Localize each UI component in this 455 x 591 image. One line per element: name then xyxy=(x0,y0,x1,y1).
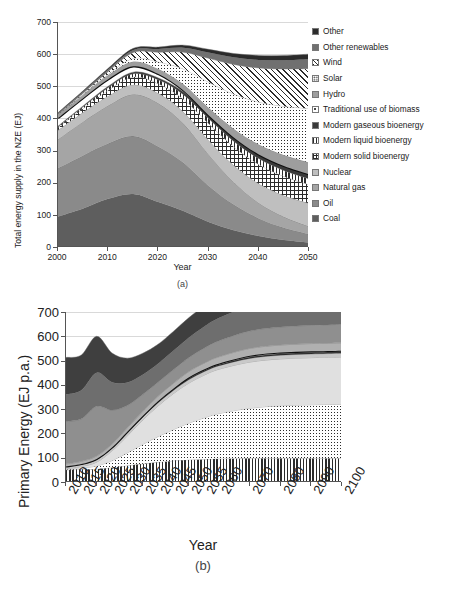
y-axis-tick-label: 0 xyxy=(27,242,51,252)
legend-item-oil[interactable]: Oil xyxy=(312,196,455,212)
legend-item-modern-gaseous-bioenergy[interactable]: Modern gaseous bioenergy xyxy=(312,118,455,134)
y-axis-tick-mark xyxy=(53,22,57,23)
legend-item-wind[interactable]: Wind xyxy=(312,55,455,71)
legend-item-coal[interactable]: Coal xyxy=(312,211,455,227)
legend-item-label: Other renewables xyxy=(323,43,389,52)
legend-swatch-icon xyxy=(312,106,319,113)
x-axis-tick-label: 2020 xyxy=(137,252,177,262)
y-axis-tick-mark xyxy=(53,86,57,87)
legend-item-solar[interactable]: Solar xyxy=(312,71,455,87)
legend-item-label: Coal xyxy=(323,214,340,223)
x-axis-tick-label: 2100 xyxy=(341,464,368,497)
legend-swatch-icon xyxy=(312,28,319,35)
caption-a: (a) xyxy=(57,279,308,289)
y-axis-tick-label: 700 xyxy=(27,17,51,27)
legend-item-modern-liquid-bioenergy[interactable]: Modern liquid bioenergy xyxy=(312,133,455,149)
y-axis-tick-label: 400 xyxy=(27,113,51,123)
y-axis-tick-label: 100 xyxy=(27,210,51,220)
caption-b: (b) xyxy=(65,558,341,573)
y-axis-tick-mark xyxy=(61,433,65,434)
y-axis-tick-mark xyxy=(53,151,57,152)
y-axis-tick-mark xyxy=(61,361,65,362)
y-axis-tick-mark xyxy=(61,336,65,337)
legend-a: OtherOther renewablesWindSolarHydroTradi… xyxy=(312,24,455,227)
legend-swatch-icon xyxy=(312,215,319,222)
y-axis-title-a: Total energy supply in the NZE (EJ) xyxy=(13,113,23,248)
y-axis-tick-label: 500 xyxy=(27,81,51,91)
legend-item-label: Oil xyxy=(323,199,333,208)
legend-swatch-icon xyxy=(312,75,319,82)
legend-item-other[interactable]: Other xyxy=(312,24,455,40)
legend-swatch-icon xyxy=(312,122,319,129)
y-axis-tick-label: 600 xyxy=(27,329,59,344)
legend-item-label: Solar xyxy=(323,74,342,83)
y-axis-tick-label: 0 xyxy=(27,475,59,490)
legend-swatch-icon xyxy=(312,169,319,176)
legend-item-label: Modern liquid bioenergy xyxy=(323,136,412,145)
x-axis-tick-mark xyxy=(208,247,209,251)
legend-item-other-renewables[interactable]: Other renewables xyxy=(312,40,455,56)
y-axis-tick-label: 200 xyxy=(27,426,59,441)
legend-item-label: Nuclear xyxy=(323,168,352,177)
legend-swatch-icon xyxy=(312,200,319,207)
x-axis-title-a: Year xyxy=(57,262,308,272)
legend-item-nuclear[interactable]: Nuclear xyxy=(312,164,455,180)
x-axis-tick-mark xyxy=(157,247,158,251)
gridline xyxy=(58,22,308,23)
legend-item-hydro[interactable]: Hydro xyxy=(312,86,455,102)
y-axis-tick-label: 500 xyxy=(27,353,59,368)
legend-swatch-icon xyxy=(312,44,319,51)
x-axis-tick-label: 2050 xyxy=(288,252,328,262)
y-axis-tick-mark xyxy=(61,312,65,313)
x-axis-title-b: Year xyxy=(65,537,341,553)
x-axis-tick-label: 2010 xyxy=(87,252,127,262)
figure-two-energy-scenarios: Total energy supply in the NZE (EJ) 0100… xyxy=(0,0,455,591)
x-axis-tick-label: 2040 xyxy=(238,252,278,262)
x-axis-tick-label: 2030 xyxy=(188,252,228,262)
y-axis-tick-mark xyxy=(61,409,65,410)
legend-swatch-icon xyxy=(312,153,319,160)
y-axis-tick-mark xyxy=(53,183,57,184)
y-axis-tick-mark xyxy=(53,215,57,216)
x-axis-tick-mark xyxy=(258,247,259,251)
legend-item-label: Traditional use of biomass xyxy=(323,105,420,114)
chart-panel-a: Total energy supply in the NZE (EJ) 0100… xyxy=(0,0,455,300)
y-axis-tick-label: 700 xyxy=(27,305,59,320)
legend-item-natural-gas[interactable]: Natural gas xyxy=(312,180,455,196)
legend-swatch-icon xyxy=(312,59,319,66)
legend-item-label: Modern gaseous bioenergy xyxy=(323,121,424,130)
legend-swatch-icon xyxy=(312,184,319,191)
legend-item-traditional-use-of-biomass[interactable]: Traditional use of biomass xyxy=(312,102,455,118)
plot-area-a xyxy=(57,22,308,247)
chart-panel-b: Primary Energy (EJ p.a.) 010020030040050… xyxy=(0,300,455,591)
y-axis-tick-mark xyxy=(61,385,65,386)
x-axis-tick-mark xyxy=(308,247,309,251)
plot-area-b xyxy=(65,312,341,482)
legend-swatch-icon xyxy=(312,137,319,144)
legend-item-label: Wind xyxy=(323,58,342,67)
y-axis-tick-label: 300 xyxy=(27,402,59,417)
y-axis-tick-label: 600 xyxy=(27,49,51,59)
legend-item-label: Modern solid bioenergy xyxy=(323,152,409,161)
y-axis-tick-label: 400 xyxy=(27,377,59,392)
legend-item-modern-solid-bioenergy[interactable]: Modern solid bioenergy xyxy=(312,149,455,165)
y-axis-tick-label: 200 xyxy=(27,177,51,187)
y-axis-tick-mark xyxy=(53,54,57,55)
y-axis-tick-mark xyxy=(53,118,57,119)
y-axis-tick-label: 100 xyxy=(27,450,59,465)
legend-item-label: Natural gas xyxy=(323,183,365,192)
y-axis-tick-label: 300 xyxy=(27,145,51,155)
legend-item-label: Hydro xyxy=(323,90,345,99)
y-axis-tick-mark xyxy=(61,458,65,459)
x-axis-tick-label: 2000 xyxy=(37,252,77,262)
legend-item-label: Other xyxy=(323,27,344,36)
legend-swatch-icon xyxy=(312,91,319,98)
x-axis-tick-mark xyxy=(57,247,58,251)
x-axis-tick-mark xyxy=(107,247,108,251)
